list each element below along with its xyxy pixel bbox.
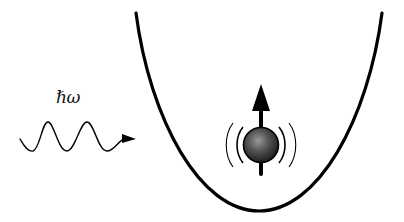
wavy-arrow-icon xyxy=(20,122,136,151)
diagram-canvas: ℏω xyxy=(0,0,404,222)
photon-energy-label: ℏω xyxy=(56,89,80,106)
sphere-icon xyxy=(244,128,279,163)
diagram-svg xyxy=(0,0,404,222)
